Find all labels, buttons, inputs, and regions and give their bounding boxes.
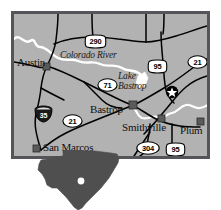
shield-label-290: 290 [90, 37, 102, 46]
city-label-plum: Plum [180, 125, 202, 136]
shield-label-95-north: 95 [154, 62, 162, 71]
city-marker-bastrop [129, 101, 137, 109]
city-label-smithville: Smithville [122, 122, 166, 133]
water-label-lake-bastrop: Lake Bastrop [118, 72, 160, 92]
city-label-austin: Austin [17, 57, 45, 68]
shield-label-35: 35 [40, 112, 48, 119]
shield-label-21-sw: 21 [69, 117, 77, 126]
shield-label-95-south: 95 [172, 145, 180, 154]
texas-outline-graphic [33, 150, 153, 210]
star-marker [166, 86, 178, 98]
locator-map-figure: 290 95 21 71 [0, 0, 221, 210]
highway-shield-i-35: 35 [34, 105, 53, 126]
texas-locator-dot [78, 178, 85, 185]
map-panel: 290 95 21 71 [11, 11, 210, 159]
texas-state-inset [33, 150, 153, 210]
water-label-colorado-river: Colorado River [60, 51, 117, 61]
highway-shield-tx-21-sw: 21 [62, 114, 83, 131]
highway-shield-tx-71: 71 [97, 78, 118, 95]
city-label-bastrop: Bastrop [90, 104, 123, 115]
shield-label-71: 71 [104, 81, 112, 90]
highway-shield-tx-21-ne: 21 [187, 55, 208, 72]
shield-label-21-ne: 21 [194, 58, 202, 67]
highway-shield-us-95-south: 95 [165, 142, 186, 159]
